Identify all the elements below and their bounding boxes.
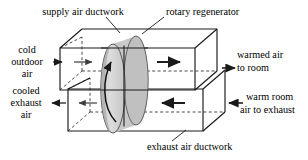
label-cold-outdoor-air-line3: air bbox=[2, 68, 52, 79]
leader-regenerator bbox=[142, 17, 164, 34]
label-cooled-exhaust-air-line1: cooled bbox=[1, 85, 51, 96]
diagram-canvas bbox=[0, 0, 308, 160]
label-warmed-air-line1: warmed air bbox=[237, 49, 283, 60]
label-rotary-regenerator: rotary regenerator bbox=[166, 6, 239, 17]
label-cold-outdoor-air-line1: cold bbox=[2, 44, 52, 55]
leader-exhaust-duct bbox=[172, 130, 186, 141]
rotary-regenerator-wheel bbox=[101, 36, 148, 133]
label-cooled-exhaust-air-line3: air bbox=[1, 109, 51, 120]
label-supply-air-ductwork: supply air ductwork bbox=[18, 6, 148, 17]
label-warm-room-air-line2: air to exhaust bbox=[240, 104, 295, 115]
label-exhaust-air-ductwork: exhaust air ductwork bbox=[147, 141, 232, 152]
label-warmed-air-line2: to room bbox=[237, 62, 269, 73]
label-cooled-exhaust-air-line2: exhaust bbox=[1, 97, 51, 108]
label-warm-room-air-line1: warm room bbox=[246, 91, 293, 102]
wheel-far-face bbox=[124, 36, 148, 125]
rotary-regenerator-diagram: supply air ductwork rotary regenerator c… bbox=[0, 0, 308, 160]
leader-supply-duct bbox=[106, 17, 120, 33]
label-cold-outdoor-air-line2: outdoor bbox=[0, 56, 54, 67]
